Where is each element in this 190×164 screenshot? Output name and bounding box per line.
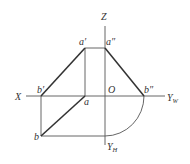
- point-b-prime-label: b′: [37, 84, 45, 95]
- x-axis-label: X: [14, 91, 22, 102]
- point-a-prime-label: a′: [79, 36, 87, 47]
- line-a-b: [41, 96, 85, 136]
- point-a-double-prime-label: a″: [106, 36, 116, 47]
- line-a-prime-b-prime: [41, 48, 85, 96]
- yh-axis-label: YH: [107, 141, 118, 153]
- point-a-label: a: [84, 96, 89, 107]
- projection-diagram: Z X O YW YH a′ a″ b′ b″ a b: [0, 0, 190, 164]
- point-b-double-prime-label: b″: [144, 84, 154, 95]
- transfer-arc: [105, 96, 144, 136]
- z-axis-label: Z: [101, 11, 107, 22]
- point-b-label: b: [34, 131, 39, 142]
- yw-axis-label: YW: [167, 92, 179, 104]
- origin-label: O: [108, 84, 115, 95]
